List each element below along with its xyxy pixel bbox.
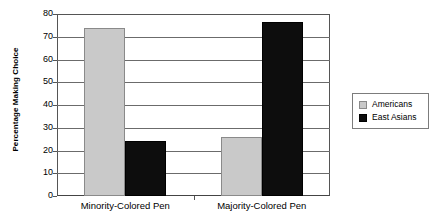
y-tick-label: 60 [27, 55, 53, 64]
bar [262, 22, 303, 196]
bar-chart-figure: Percentage Making Choice 010203040506070… [0, 0, 436, 223]
y-axis-title: Percentage Making Choice [11, 10, 20, 190]
bar [221, 137, 262, 196]
x-axis-category-label: Minority-Colored Pen [55, 200, 195, 211]
legend-item-label: Americans [372, 100, 412, 109]
y-tick-label: 80 [27, 9, 53, 18]
x-axis-tick-mark [194, 196, 195, 200]
y-tick-mark [53, 196, 57, 197]
y-tick-label: 20 [27, 146, 53, 155]
y-tick-label: 0 [27, 191, 53, 200]
legend-item: Americans [359, 99, 423, 110]
legend-item: East Asians [359, 112, 423, 123]
y-axis-ticks: 01020304050607080 [23, 14, 53, 196]
y-tick-label: 40 [27, 100, 53, 109]
y-tick-label: 10 [27, 168, 53, 177]
y-tick-label: 70 [27, 32, 53, 41]
bar [125, 141, 166, 196]
x-axis-category-label: Majority-Colored Pen [192, 200, 332, 211]
chart-title [0, 0, 336, 1]
y-tick-label: 50 [27, 77, 53, 86]
legend-item-label: East Asians [372, 113, 416, 122]
legend: AmericansEast Asians [352, 93, 429, 129]
y-tick-label: 30 [27, 123, 53, 132]
bar [84, 28, 125, 196]
legend-swatch-icon [359, 101, 367, 109]
legend-swatch-icon [359, 114, 367, 122]
plot-area [57, 14, 330, 196]
